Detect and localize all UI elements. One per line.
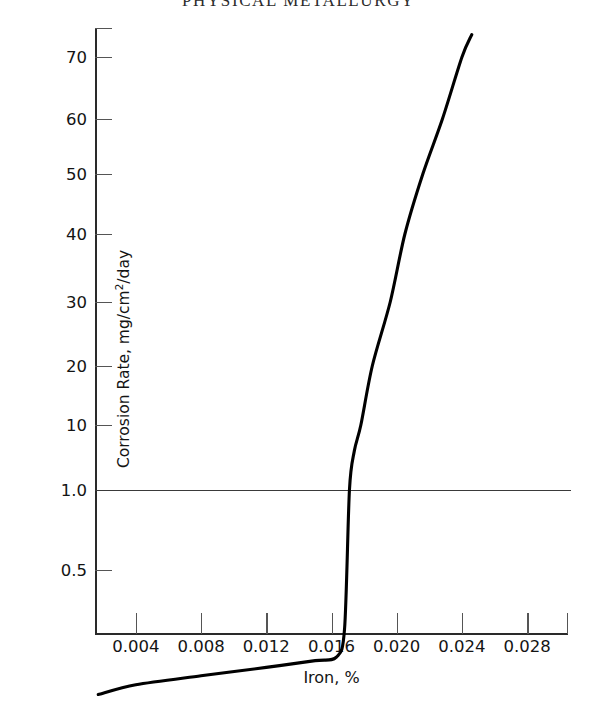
x-axis-title: Iron, %: [95, 668, 568, 687]
y-axis-title-pre: Corrosion Rate, mg/cm: [115, 290, 133, 468]
x-tick-label: 0.024: [438, 637, 485, 656]
x-tick-label: 0.012: [243, 637, 290, 656]
y-tick-label: 70: [66, 48, 87, 67]
running-head-title: PHYSICAL METALLURGY: [0, 0, 597, 11]
x-tick-label: 0.016: [308, 637, 355, 656]
y-tick-label: 0.5: [61, 561, 87, 580]
corrosion-curve: [95, 28, 568, 635]
y-tick-label: 20: [66, 357, 87, 376]
x-tick-label: 0.028: [504, 637, 551, 656]
y-tick-label: 1.0: [61, 481, 87, 500]
figure-corrosion-rate-vs-iron: PHYSICAL METALLURGY 706050403020101.00.5…: [0, 0, 597, 718]
x-tick-label: 0.020: [373, 637, 420, 656]
y-axis-title-superscript: 2: [113, 284, 125, 291]
y-axis-title-post: /day: [115, 250, 133, 284]
y-tick-label: 40: [66, 225, 87, 244]
y-tick-label: 10: [66, 416, 87, 435]
x-tick-label: 0.004: [112, 637, 159, 656]
x-tick-label: 0.008: [177, 637, 224, 656]
y-tick-label: 60: [66, 110, 87, 129]
y-axis-title: Corrosion Rate, mg/cm2/day: [113, 250, 133, 468]
y-tick-label: 30: [66, 293, 87, 312]
y-tick-label: 50: [66, 165, 87, 184]
plot-area: 706050403020101.00.5 0.0040.0080.0120.01…: [95, 28, 568, 635]
